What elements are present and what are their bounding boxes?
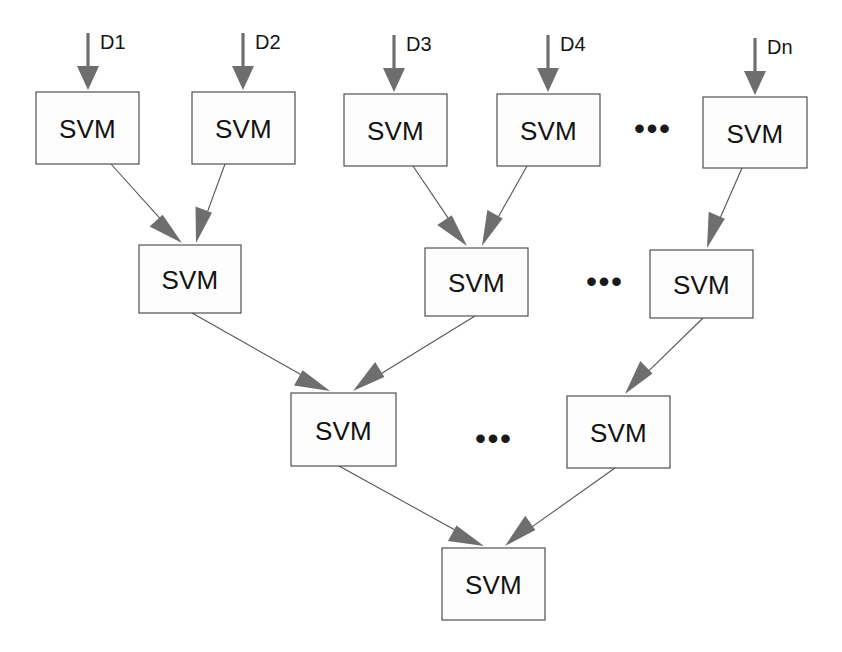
svm-node-label: SVM [315,416,372,446]
svm-node-l2n3[interactable]: SVM [650,250,753,318]
ellipsis-level-3: ••• [475,422,513,455]
svm-node-label: SVM [590,418,647,448]
input-label-d3: D3 [406,33,432,55]
svm-node-l1n4[interactable]: SVM [497,94,600,166]
input-label-d1: D1 [100,31,126,53]
input-label-d4: D4 [560,33,586,55]
ellipsis-level-2: ••• [586,265,624,298]
svm-node-label: SVM [162,265,219,295]
svm-node-l3n2[interactable]: SVM [567,396,670,468]
input-label-d2: D2 [255,31,281,53]
svm-node-label: SVM [367,116,424,146]
svm-cascade-diagram: D1D2D3D4Dn SVMSVMSVMSVMSVMSVMSVMSVMSVMSV… [0,0,842,652]
svm-node-l3n1[interactable]: SVM [291,393,396,466]
ellipsis-level-1: ••• [634,112,672,145]
svm-node-label: SVM [59,114,116,144]
svm-node-l1n3[interactable]: SVM [344,94,447,166]
svm-node-label: SVM [215,114,272,144]
svm-node-label: SVM [465,570,522,600]
svm-node-l1n1[interactable]: SVM [36,92,139,164]
svm-node-l1n5[interactable]: SVM [703,97,807,168]
svm-node-l2n2[interactable]: SVM [425,248,528,316]
svm-node-l2n1[interactable]: SVM [139,245,241,313]
svm-node-label: SVM [673,270,730,300]
input-label-dn: Dn [767,36,793,58]
svm-node-label: SVM [520,116,577,146]
svm-node-l1n2[interactable]: SVM [192,92,295,164]
svm-node-l4n1[interactable]: SVM [442,548,545,620]
svm-node-label: SVM [727,119,784,149]
svm-node-label: SVM [448,268,505,298]
diagram-canvas: D1D2D3D4Dn SVMSVMSVMSVMSVMSVMSVMSVMSVMSV… [0,0,842,652]
